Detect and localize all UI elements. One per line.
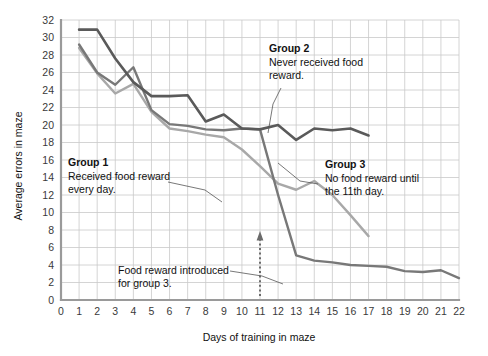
x-tick-label: 8 — [203, 305, 209, 317]
x-tick-label: 0 — [58, 305, 64, 317]
x-tick-label: 2 — [94, 305, 100, 317]
y-tick-label: 26 — [42, 66, 54, 78]
y-tick-label: 4 — [48, 259, 54, 271]
y-tick-label: 12 — [42, 189, 54, 201]
annotation-food-reward-line-1: Food reward introduced — [118, 264, 229, 276]
x-axis-title: Days of training in maze — [203, 331, 316, 343]
annotation-group-2-title: Group 2 — [269, 42, 309, 54]
annotation-group-3-line-1: No food reward until — [325, 172, 419, 184]
y-tick-label: 2 — [48, 276, 54, 288]
y-tick-label: 10 — [42, 206, 54, 218]
x-tick-label: 1 — [76, 305, 82, 317]
x-tick-label: 3 — [112, 305, 118, 317]
x-tick-label: 12 — [272, 305, 284, 317]
annotation-group-2-line-1: Never received food — [269, 56, 363, 68]
x-tick-label: 17 — [363, 305, 375, 317]
x-tick-label: 9 — [221, 305, 227, 317]
x-tick-label: 22 — [453, 305, 465, 317]
annotation-group-1-line-2: every day. — [68, 183, 116, 195]
x-tick-label: 6 — [167, 305, 173, 317]
x-tick-label: 10 — [236, 305, 248, 317]
x-tick-label: 20 — [417, 305, 429, 317]
y-tick-label: 8 — [48, 224, 54, 236]
x-tick-label: 4 — [130, 305, 136, 317]
y-tick-label: 14 — [42, 171, 54, 183]
x-tick-label: 5 — [149, 305, 155, 317]
annotation-group-2-line-2: reward. — [269, 69, 304, 81]
annotation-group-1-title: Group 1 — [68, 156, 108, 168]
y-tick-label: 18 — [42, 136, 54, 148]
x-tick-label: 18 — [381, 305, 393, 317]
x-tick-label: 16 — [345, 305, 357, 317]
y-tick-label: 32 — [42, 14, 54, 26]
y-tick-label: 0 — [48, 294, 54, 306]
annotation-group-3-title: Group 3 — [325, 158, 365, 170]
chart-container: 012345678910111213141516171819202122 024… — [0, 0, 488, 356]
line-chart-figure: 012345678910111213141516171819202122 024… — [0, 0, 488, 356]
x-tick-label: 11 — [255, 305, 266, 317]
x-tick-label: 21 — [435, 305, 447, 317]
y-tick-label: 22 — [42, 101, 54, 113]
x-tick-label: 13 — [290, 305, 302, 317]
x-tick-label: 14 — [308, 305, 320, 317]
y-tick-label: 28 — [42, 49, 54, 61]
annotation-group-1-line-1: Received food reward — [68, 170, 170, 182]
y-tick-label: 16 — [42, 154, 54, 166]
x-tick-label: 19 — [399, 305, 411, 317]
y-tick-label: 30 — [42, 31, 54, 43]
annotation-group-3-line-2: the 11th day. — [325, 185, 384, 197]
x-tick-label: 15 — [327, 305, 339, 317]
y-axis-title: Average errors in maze — [12, 111, 24, 220]
annotation-food-reward-line-2: for group 3. — [118, 277, 172, 289]
y-tick-label: 20 — [42, 119, 54, 131]
y-tick-label: 24 — [42, 84, 54, 96]
x-tick-label: 7 — [185, 305, 191, 317]
y-tick-label: 6 — [48, 241, 54, 253]
